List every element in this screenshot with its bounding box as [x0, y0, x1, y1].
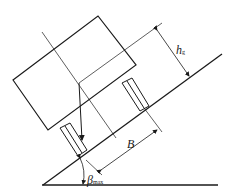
angle-arc — [80, 158, 84, 184]
angle-label: βmax — [87, 174, 103, 186]
height-label: hg — [176, 44, 185, 56]
slope-diagram — [0, 0, 236, 196]
width-label: B — [127, 138, 134, 150]
cg-line — [79, 23, 162, 83]
vehicle-body — [13, 16, 136, 130]
gravity-arrow — [79, 83, 82, 140]
slope-line — [43, 54, 222, 185]
